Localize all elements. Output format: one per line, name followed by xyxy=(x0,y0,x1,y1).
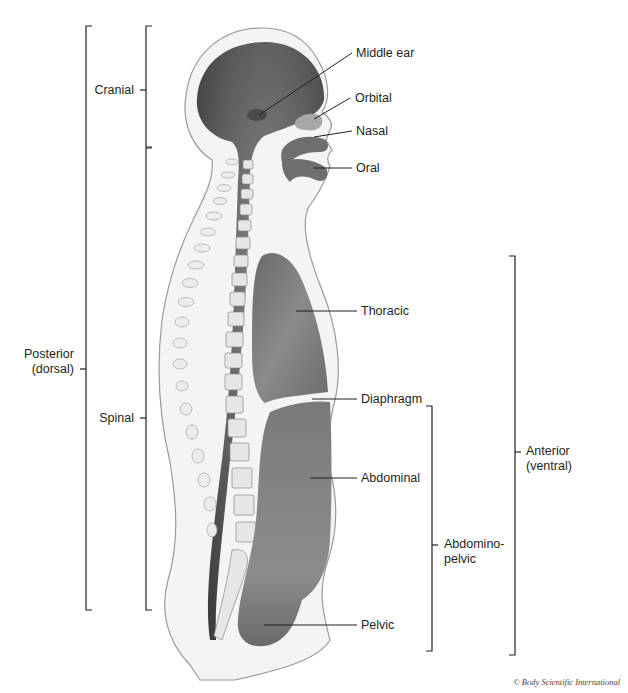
label-orbital: Orbital xyxy=(355,91,392,106)
label-abdominal: Abdominal xyxy=(361,471,420,486)
label-middle-ear: Middle ear xyxy=(356,46,414,61)
label-posterior-line1: Posterior xyxy=(24,347,74,362)
label-oral: Oral xyxy=(356,161,380,176)
copyright-credit: © Body Scientific International xyxy=(513,677,620,687)
label-cranial: Cranial xyxy=(94,83,134,98)
bracket-posterior xyxy=(86,26,92,610)
body-cavities-illustration xyxy=(0,0,628,693)
label-posterior: Posterior (dorsal) xyxy=(24,347,74,377)
bracket-abdominopelvic xyxy=(426,406,432,651)
bracket-cranial xyxy=(146,26,152,147)
label-diaphragm: Diaphragm xyxy=(361,392,422,407)
label-nasal: Nasal xyxy=(356,124,388,139)
label-pelvic: Pelvic xyxy=(361,618,394,633)
label-spinal: Spinal xyxy=(99,411,134,426)
label-anterior-line2: (ventral) xyxy=(526,459,572,474)
label-anterior: Anterior (ventral) xyxy=(526,444,572,474)
label-posterior-line2: (dorsal) xyxy=(24,362,74,377)
bracket-spinal xyxy=(146,148,152,610)
middle-ear-cavity xyxy=(247,109,267,121)
label-abdominopelvic-line2: pelvic xyxy=(444,552,504,567)
label-anterior-line1: Anterior xyxy=(526,444,572,459)
label-thoracic: Thoracic xyxy=(361,304,409,319)
bracket-anterior xyxy=(509,256,515,655)
label-abdominopelvic-line1: Abdomino- xyxy=(444,537,504,552)
label-abdominopelvic: Abdomino- pelvic xyxy=(444,537,504,567)
